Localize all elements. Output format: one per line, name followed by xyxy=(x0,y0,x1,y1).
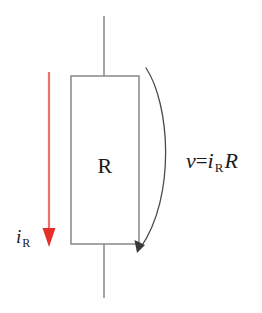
current-symbol: i xyxy=(16,226,21,247)
voltage-symbol: v xyxy=(186,148,196,173)
ohms-law-current-subscript: R xyxy=(215,160,224,175)
resistor-label: R xyxy=(0,155,210,177)
current-label: iR xyxy=(16,227,30,249)
ohms-law-current-symbol: i xyxy=(208,148,214,173)
equals-sign: = xyxy=(196,149,208,173)
ohms-law-label: v=iRR xyxy=(186,150,238,174)
ohms-law-resistance-symbol: R xyxy=(224,148,237,173)
figure-canvas: R iR v=iRR xyxy=(0,0,262,313)
current-subscript: R xyxy=(22,236,30,250)
current-arrow-head xyxy=(43,228,56,247)
